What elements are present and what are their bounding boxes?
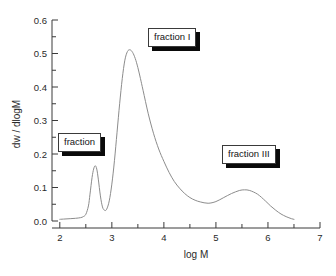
annotation-fraction: fraction — [58, 133, 101, 152]
y-axis-ticks — [52, 20, 58, 221]
x-axis-title: log M — [184, 249, 208, 260]
svg-text:0.6: 0.6 — [34, 15, 47, 26]
svg-text:4: 4 — [161, 232, 166, 243]
svg-text:0.0: 0.0 — [34, 216, 47, 227]
svg-text:0.5: 0.5 — [34, 48, 47, 59]
svg-text:6: 6 — [265, 232, 270, 243]
svg-text:5: 5 — [213, 232, 218, 243]
x-axis-ticks — [60, 222, 320, 228]
svg-text:0.1: 0.1 — [34, 182, 47, 193]
svg-text:0.4: 0.4 — [34, 82, 47, 93]
annotation-fraction-i: fraction I — [148, 28, 196, 47]
y-axis-title: dw / dlogM — [11, 100, 22, 148]
svg-text:0.2: 0.2 — [34, 149, 47, 160]
y-axis-tick-labels: 0.00.10.20.30.40.50.6 — [34, 15, 47, 227]
x-axis-tick-labels: 234567 — [57, 232, 322, 243]
svg-text:2: 2 — [57, 232, 62, 243]
svg-text:3: 3 — [109, 232, 114, 243]
annotation-fraction-iii: fraction III — [222, 145, 276, 164]
svg-text:0.3: 0.3 — [34, 115, 47, 126]
svg-text:7: 7 — [317, 232, 322, 243]
chart-figure: 0.00.10.20.30.40.50.6 234567 log M dw / … — [0, 0, 336, 276]
